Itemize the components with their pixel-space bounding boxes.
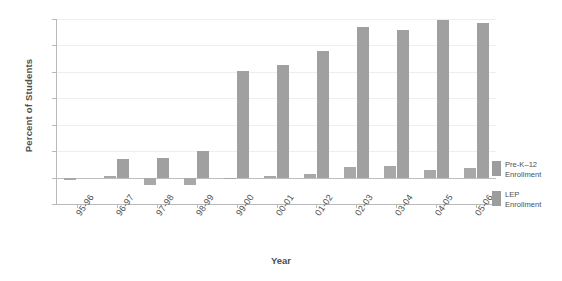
bar — [437, 20, 449, 177]
bar — [384, 166, 396, 178]
legend-label-line1: LEP — [505, 190, 541, 200]
bar — [184, 178, 196, 186]
bar — [317, 51, 329, 178]
legend-swatch-icon — [492, 161, 501, 176]
legend-label-line2: Enrollment — [505, 170, 541, 180]
legend-entry: LEPEnrollment — [492, 190, 562, 211]
legend-label: Pre-K–12Enrollment — [505, 160, 541, 181]
bar-chart: Percent of Students -100102030405060 95-… — [0, 0, 562, 281]
gridline-60 — [57, 19, 496, 20]
legend-label-line2: Enrollment — [505, 200, 541, 210]
bar — [397, 30, 409, 178]
bar — [464, 168, 476, 177]
bar — [157, 158, 169, 178]
legend-label-line1: Pre-K–12 — [505, 160, 541, 170]
y-axis-title: Percent of Students — [23, 26, 34, 186]
bar — [357, 27, 369, 178]
bar — [277, 65, 289, 177]
bar — [477, 23, 489, 178]
chart-legend: Pre-K–12EnrollmentLEPEnrollment — [492, 160, 562, 219]
legend-entry: Pre-K–12Enrollment — [492, 160, 562, 181]
x-axis-title: Year — [0, 255, 562, 266]
bar — [224, 178, 236, 179]
bar — [424, 170, 436, 178]
bar — [344, 167, 356, 178]
bar — [304, 174, 316, 178]
bar — [264, 176, 276, 177]
legend-label: LEPEnrollment — [505, 190, 541, 211]
bar — [144, 178, 156, 186]
bar — [237, 71, 249, 178]
bar — [197, 151, 209, 177]
gridline-50 — [57, 45, 496, 46]
gridline-0 — [57, 178, 496, 179]
bar — [64, 178, 76, 181]
legend-swatch-icon — [492, 191, 501, 206]
bar — [117, 159, 129, 178]
plot-area — [57, 19, 496, 204]
bar — [104, 176, 116, 177]
